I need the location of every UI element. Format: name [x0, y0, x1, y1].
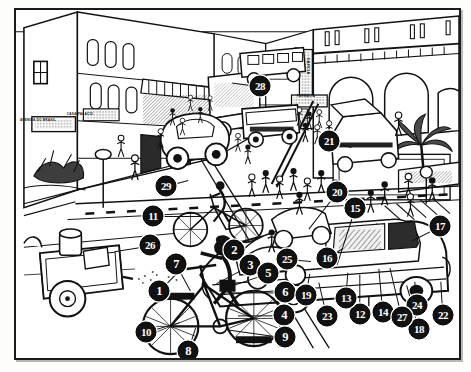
- callout-number-15[interactable]: 15: [345, 198, 366, 219]
- callout-number-8[interactable]: 8: [178, 341, 199, 361]
- street-scene-artwork: [16, 10, 459, 358]
- callout-number-27[interactable]: 27: [392, 307, 413, 328]
- callout-number-29[interactable]: 29: [156, 176, 177, 197]
- callout-number-18[interactable]: 18: [409, 319, 430, 340]
- callout-number-28[interactable]: 28: [250, 76, 271, 97]
- callout-number-23[interactable]: 23: [317, 306, 338, 327]
- callout-number-13[interactable]: 13: [336, 288, 357, 309]
- callout-number-22[interactable]: 22: [433, 305, 454, 326]
- callout-number-12[interactable]: 12: [350, 304, 371, 325]
- callout-number-5[interactable]: 5: [258, 263, 279, 284]
- callout-number-17[interactable]: 17: [430, 216, 451, 237]
- callout-number-10[interactable]: 10: [136, 322, 157, 343]
- callout-number-16[interactable]: 16: [317, 248, 338, 269]
- callout-number-20[interactable]: 20: [327, 182, 348, 203]
- callout-number-26[interactable]: 26: [140, 235, 161, 256]
- callout-number-11[interactable]: 11: [143, 206, 164, 227]
- callout-number-19[interactable]: 19: [296, 285, 317, 306]
- callout-number-25[interactable]: 25: [277, 249, 298, 270]
- callout-number-6[interactable]: 6: [275, 282, 296, 303]
- callout-number-7[interactable]: 7: [166, 254, 187, 275]
- illustration-scene: 1234567891011121314151617181920212223242…: [0, 0, 471, 372]
- callout-number-14[interactable]: 14: [373, 302, 394, 323]
- illustration-frame: 1234567891011121314151617181920212223242…: [14, 8, 461, 360]
- callout-number-9[interactable]: 9: [275, 327, 296, 348]
- callout-number-21[interactable]: 21: [319, 131, 340, 152]
- callout-number-1[interactable]: 1: [149, 281, 170, 302]
- callout-number-4[interactable]: 4: [274, 305, 295, 326]
